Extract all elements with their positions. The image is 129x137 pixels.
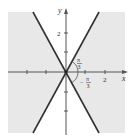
svg-text:3: 3 xyxy=(87,83,90,89)
graph: y x 2 2 π 3 − π 3 xyxy=(0,0,129,137)
svg-text:3: 3 xyxy=(78,64,81,70)
y-tick-label: 2 xyxy=(57,30,61,38)
svg-text:π: π xyxy=(86,76,89,82)
y-axis-label: y xyxy=(57,6,62,15)
y-axis-arrow-icon xyxy=(64,8,68,14)
origin-point xyxy=(64,70,67,73)
x-axis-label: x xyxy=(121,74,126,83)
svg-text:π: π xyxy=(77,57,80,63)
x-tick-label: 2 xyxy=(103,76,107,84)
